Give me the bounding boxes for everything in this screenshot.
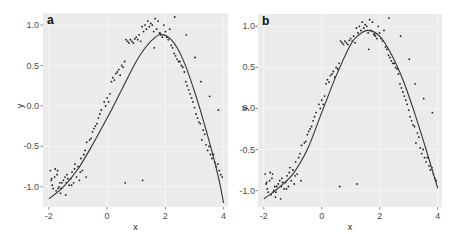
data-point — [125, 39, 127, 41]
data-point — [289, 167, 291, 169]
data-point — [282, 182, 284, 184]
data-point — [292, 169, 294, 171]
data-point — [106, 97, 108, 99]
data-point — [56, 174, 58, 176]
data-point — [194, 57, 196, 59]
data-point — [98, 117, 100, 119]
data-point — [194, 107, 196, 109]
data-point — [195, 113, 197, 115]
data-point — [147, 20, 149, 22]
data-point — [146, 28, 148, 30]
data-point — [280, 198, 282, 200]
data-point — [191, 97, 193, 99]
data-point — [405, 99, 407, 101]
y-tick-label: -1.0 — [23, 182, 39, 192]
data-point — [281, 177, 283, 179]
data-point — [142, 179, 144, 181]
x-tick-label: 2 — [377, 211, 382, 221]
data-point — [411, 120, 413, 122]
data-point — [428, 165, 430, 167]
panel-a: -2024-1.0-0.50.00.51.0xya — [15, 13, 228, 232]
data-point — [376, 38, 378, 40]
data-point — [375, 35, 377, 37]
data-point — [408, 58, 410, 60]
data-point — [408, 109, 410, 111]
data-point — [328, 81, 330, 83]
data-point — [76, 176, 78, 178]
data-point — [181, 65, 183, 67]
data-point — [132, 42, 134, 44]
data-point — [84, 150, 86, 152]
data-point — [305, 140, 307, 142]
data-point — [127, 40, 129, 42]
data-point — [221, 176, 223, 178]
data-point — [211, 158, 213, 160]
data-point — [95, 125, 97, 127]
x-tick-label: 2 — [163, 211, 168, 221]
data-point — [356, 183, 358, 185]
data-point — [359, 25, 361, 27]
data-point — [49, 170, 51, 172]
data-point — [341, 42, 343, 44]
data-point — [421, 153, 423, 155]
data-point — [348, 39, 350, 41]
data-point — [318, 103, 320, 105]
data-point — [338, 62, 340, 64]
figure: -2024-1.0-0.50.00.51.0xya -2024-1.0-0.50… — [0, 0, 457, 234]
data-point — [59, 182, 61, 184]
data-point — [55, 190, 57, 192]
data-point — [363, 27, 365, 29]
data-point — [52, 188, 54, 190]
data-point — [71, 184, 73, 186]
data-point — [311, 126, 313, 128]
x-axis-title: x — [133, 222, 138, 232]
data-point — [119, 74, 121, 76]
data-point — [294, 175, 296, 177]
data-point — [217, 163, 219, 165]
data-point — [67, 178, 69, 180]
data-point — [321, 99, 323, 101]
data-point — [415, 142, 417, 144]
data-point — [124, 61, 126, 63]
data-point — [275, 191, 277, 193]
data-point — [403, 95, 405, 97]
data-point — [182, 66, 184, 68]
data-point — [325, 83, 327, 85]
data-point — [204, 133, 206, 135]
chart-canvas: -2024-1.0-0.50.00.51.0xya -2024-1.0-0.50… — [0, 0, 457, 234]
data-point — [296, 173, 298, 175]
data-point — [269, 172, 271, 174]
data-point — [264, 173, 266, 175]
data-point — [112, 77, 114, 79]
data-point — [130, 39, 132, 41]
data-point — [141, 26, 143, 28]
data-point — [174, 16, 176, 18]
data-point — [398, 73, 400, 75]
data-point — [189, 93, 191, 95]
data-point — [288, 172, 290, 174]
data-point — [108, 101, 110, 103]
y-tick-label: 0.5 — [242, 62, 255, 72]
data-point — [54, 168, 56, 170]
data-point — [58, 186, 60, 188]
data-point — [395, 67, 397, 69]
data-point — [170, 44, 172, 46]
data-point — [335, 67, 337, 69]
data-point — [286, 175, 288, 177]
data-point — [207, 150, 209, 152]
x-axis-title: x — [348, 222, 353, 232]
data-point — [137, 39, 139, 41]
data-point — [422, 149, 424, 151]
data-point — [151, 24, 153, 26]
data-point — [73, 182, 75, 184]
data-point — [332, 71, 334, 73]
data-point — [293, 183, 295, 185]
data-point — [135, 36, 137, 38]
data-point — [218, 109, 220, 111]
data-point — [116, 71, 118, 73]
data-point — [367, 32, 369, 34]
data-point — [51, 178, 53, 180]
data-point — [300, 180, 302, 182]
data-point — [54, 176, 56, 178]
data-point — [114, 79, 116, 81]
